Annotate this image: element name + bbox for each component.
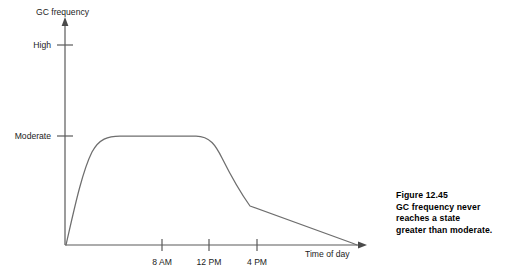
gc-frequency-curve [66,136,357,245]
caption-line-1: Figure 12.45 [396,190,514,202]
caption-line-3: reaches a state [396,213,514,225]
y-tick-label-high: High [33,40,51,50]
x-tick-label-8am: 8 AM [152,257,172,267]
figure-container: GC frequency Time of day High Moderate 8… [0,0,519,276]
x-axis-arrow-icon [358,242,367,249]
x-axis-title: Time of day [305,249,350,259]
y-tick-label-moderate: Moderate [15,131,52,141]
caption-line-4: greater than moderate. [396,225,514,237]
x-tick-label-4pm: 4 PM [247,257,267,267]
x-tick-label-12pm: 12 PM [197,257,222,267]
figure-caption: Figure 12.45 GC frequency never reaches … [396,190,514,236]
y-axis-title: GC frequency [36,7,90,17]
caption-line-2: GC frequency never [396,202,514,214]
y-axis-arrow-icon [62,17,69,26]
